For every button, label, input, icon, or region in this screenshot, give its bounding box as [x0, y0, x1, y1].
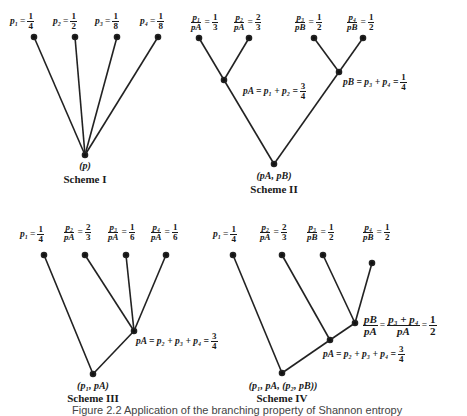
scheme-2-tree [197, 36, 366, 167]
s2-title: Scheme II [234, 183, 314, 195]
s1-leaf-3-label: p₃ = 18 [95, 12, 119, 31]
s4-leaf-2-label: p₂pA = 23 [259, 223, 287, 242]
s3-leaf-4-label: p₄pA = 16 [150, 223, 178, 242]
s3-leaf-1-label: p₁ = 14 [20, 225, 44, 244]
s1-title: Scheme I [45, 173, 125, 185]
s3-root-label: (p₁, pA) [63, 380, 123, 391]
s1-leaf-4-label: p₄ = 18 [140, 12, 164, 31]
figure-caption: Figure 2.2 Application of the branching … [72, 404, 402, 416]
s2-root-label: (pA, pB) [244, 170, 304, 181]
s1-root-label: (p) [60, 160, 110, 171]
s1-leaf-2-label: p₂ = 12 [53, 12, 77, 31]
s3-leaf-3-label: p₃pA = 16 [107, 223, 135, 242]
s2-leaf-2-label: p₂pA = 23 [233, 13, 261, 32]
s2-node-a-label: pA = p₁ + p₂ = 34 [243, 82, 306, 101]
s4-leaf-1-label: p₁ = 14 [213, 225, 237, 244]
s4-node-b-ratio-label: pBpA = p₃ + p₄pA = 12 [363, 314, 437, 337]
s2-leaf-1-label: p₁pA = 13 [190, 13, 218, 32]
s4-node-a-label: pA = p₂ + p₃ + p₄ = 34 [323, 345, 405, 364]
s2-leaf-4-label: p₄pB = 12 [346, 13, 374, 32]
s3-title: Scheme III [53, 392, 133, 404]
scheme-1-tree [32, 35, 161, 158]
s4-leaf-3-label: p₃pB = 12 [306, 223, 334, 242]
s4-title: Scheme IV [242, 392, 322, 404]
s2-leaf-3-label: p₃pB = 12 [294, 13, 322, 32]
s4-root-label: (p₁, pA, (p₂, pB)) [238, 380, 328, 391]
s3-node-a-label: pA = p₂ + p₃ + p₄ = 34 [136, 332, 218, 351]
s4-leaf-4-label: p₄pB = 12 [362, 223, 390, 242]
s1-leaf-1-label: p₁ = 14 [10, 12, 34, 31]
s2-node-b-label: pB = p₃ + p₄ = 14 [343, 73, 407, 92]
s3-leaf-2-label: p₂pA = 23 [63, 223, 91, 242]
scheme-3-tree [42, 253, 169, 377]
